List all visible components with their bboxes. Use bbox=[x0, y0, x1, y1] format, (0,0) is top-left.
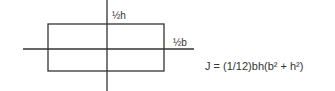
polar-moment-formula: J = (1/12)bh(b² + h²) bbox=[205, 61, 303, 72]
half-b-label: ½b bbox=[173, 38, 187, 48]
rectangle-outline bbox=[48, 24, 164, 71]
rectangle-cross-section-diagram bbox=[0, 0, 335, 91]
half-h-label: ½h bbox=[112, 11, 126, 21]
